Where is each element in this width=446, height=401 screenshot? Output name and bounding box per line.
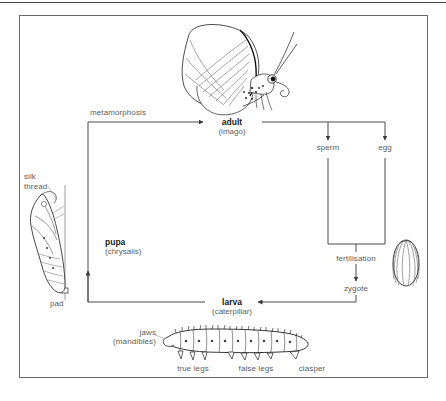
label-false-legs: false legs xyxy=(239,364,274,374)
label-true-legs: true legs xyxy=(177,364,209,374)
label-fertilisation: fertilisation xyxy=(336,254,376,264)
pupa-name: pupa xyxy=(105,237,141,247)
label-mandibles: (mandibles) xyxy=(113,337,156,347)
line-gametes-join xyxy=(328,158,385,244)
chrysalis-illustration xyxy=(30,185,68,300)
arrow-zygote-to-larva xyxy=(258,295,356,302)
node-adult: adult (imago) xyxy=(218,117,245,137)
larva-name: larva xyxy=(212,297,252,307)
label-clasper: clasper xyxy=(299,364,326,374)
label-silk-thread: silk thread xyxy=(24,172,47,192)
adult-name: adult xyxy=(218,117,245,127)
diagram-graphics xyxy=(0,0,446,401)
label-sperm: sperm xyxy=(317,143,340,153)
jaws-leader-line xyxy=(155,335,166,339)
caterpillar-illustration xyxy=(155,325,308,360)
label-metamorphosis: metamorphosis xyxy=(90,108,146,118)
egg-illustration xyxy=(393,240,419,286)
label-pad: pad xyxy=(50,299,64,309)
adult-sub: (imago) xyxy=(218,127,245,137)
butterfly-illustration xyxy=(182,24,297,114)
label-egg: egg xyxy=(378,143,392,153)
figure-canvas: metamorphosis adult (imago) sperm egg fe… xyxy=(0,0,446,401)
silk-thread-line1: silk xyxy=(24,172,47,182)
pupa-sub: (chrysalis) xyxy=(105,247,141,257)
clasper-shape xyxy=(290,351,299,359)
node-pupa: pupa (chrysalis) xyxy=(105,237,141,257)
larva-sub: (caterpillar) xyxy=(212,307,252,317)
false-legs-shapes xyxy=(228,352,273,360)
label-zygote: zygote xyxy=(344,284,368,294)
arrow-metamorphosis-to-adult xyxy=(88,122,203,302)
silk-thread-line2: thread xyxy=(24,182,47,192)
node-larva: larva (caterpillar) xyxy=(212,297,252,317)
true-legs-shapes xyxy=(178,351,207,360)
